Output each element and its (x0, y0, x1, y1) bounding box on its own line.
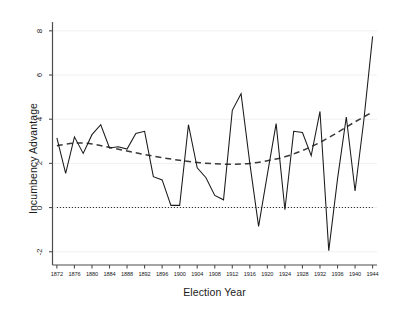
y-tick-label: -2 (35, 245, 45, 259)
y-tick-label: 0 (35, 201, 45, 215)
y-tick-label: 4 (35, 112, 45, 126)
x-tick-label: 1944 (361, 271, 385, 277)
incumbency-advantage-series-line (57, 36, 373, 250)
y-tick-label: 6 (35, 68, 45, 82)
y-tick-label: 2 (35, 156, 45, 170)
incumbency-advantage-line-chart (0, 0, 413, 317)
quadratic-trend-line (57, 112, 373, 164)
y-tick-label: 8 (35, 24, 45, 38)
gridlines (53, 31, 378, 252)
x-axis-title: Election Year (52, 286, 377, 298)
chart-figure: Incumbency Advantage Election Year -2024… (0, 0, 413, 317)
